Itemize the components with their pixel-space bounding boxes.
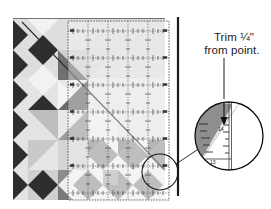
magnifier-tick-14: 14 (218, 126, 224, 132)
caption-line-2: from point. (193, 44, 271, 58)
quilting-ruler (68, 21, 169, 200)
figure-canvas: 14 13 Trim ¼" from point. (0, 0, 271, 209)
caption-line-1: Trim ¼" (197, 31, 271, 45)
